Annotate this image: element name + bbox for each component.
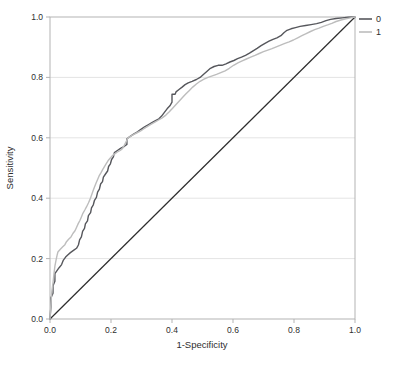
x-axis-title: 1-Specificity [176,339,227,350]
roc-plot-svg: 0.00.20.40.60.81.00.00.20.40.60.81.0 01 … [0,0,398,366]
x-tick-label: 0.8 [288,325,300,335]
y-tick-label: 0.4 [31,193,43,203]
y-axis-title: Sensitivity [4,146,15,189]
x-tick-label: 0.2 [105,325,117,335]
legend-label-1: 1 [376,27,381,37]
y-tick-label: 0.6 [31,133,43,143]
y-tick-label: 1.0 [31,12,43,22]
legend-label-0: 0 [376,14,381,24]
x-tick-label: 0.6 [227,325,239,335]
legend: 01 [359,14,381,37]
x-tick-label: 1.0 [349,325,361,335]
x-tick-label: 0.0 [44,325,56,335]
reference-line [50,17,355,319]
roc-chart: 0.00.20.40.60.81.00.00.20.40.60.81.0 01 … [0,0,398,366]
y-tick-label: 0.0 [31,314,43,324]
diagonal-reference-line [50,17,355,319]
y-tick-label: 0.8 [31,72,43,82]
y-tick-label: 0.2 [31,254,43,264]
x-tick-label: 0.4 [166,325,178,335]
